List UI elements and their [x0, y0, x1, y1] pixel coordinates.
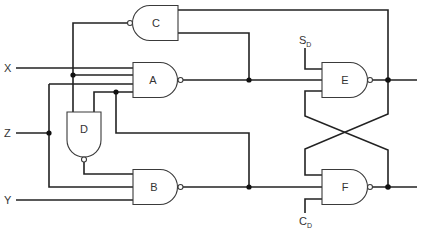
gate-b: B [133, 170, 183, 205]
wire-sd-input [305, 48, 322, 69]
signal-sd-main: S [299, 34, 306, 46]
junction-dot [113, 89, 118, 94]
signal-x-label: X [4, 62, 12, 74]
signal-sd-label: SD [299, 34, 311, 48]
junction-dot [385, 184, 391, 190]
junction-dot [246, 184, 251, 189]
inverter-bubble-icon [178, 78, 183, 83]
gate-a: A [133, 63, 183, 98]
signal-z-label: Z [4, 127, 11, 139]
gate-b-label: B [150, 181, 157, 193]
wire-c-input-lower [178, 33, 249, 80]
signal-cd-label: CD [299, 215, 312, 229]
gate-f-label: F [342, 181, 349, 193]
inverter-bubble-icon [368, 185, 373, 190]
gate-a-label: A [149, 74, 157, 86]
junction-dot [70, 72, 75, 77]
gate-d: D [67, 112, 101, 162]
junction-dot [46, 130, 51, 135]
wire-a-input4-d-input [94, 92, 133, 112]
logic-circuit-diagram: C A D B E F X Z Y SD CD [0, 0, 426, 234]
gate-c: C [128, 6, 179, 41]
gate-e: E [322, 63, 373, 98]
gate-d-label: D [80, 123, 88, 135]
inverter-bubble-icon [128, 21, 133, 26]
signal-y-label: Y [4, 194, 12, 206]
wire-d-output-to-b [84, 162, 133, 174]
signal-cd-main: C [299, 215, 307, 227]
gate-f: F [322, 170, 373, 205]
junction-dot [246, 77, 251, 82]
wire-cd-input [305, 199, 322, 213]
gate-e-label: E [341, 74, 348, 86]
signal-cd-subscript: D [307, 222, 312, 229]
junction-dot [385, 77, 391, 83]
inverter-bubble-icon [178, 185, 183, 190]
inverter-bubble-icon [82, 157, 87, 162]
signal-sd-subscript: D [306, 41, 311, 48]
gate-c-label: C [152, 17, 160, 29]
inverter-bubble-icon [368, 78, 373, 83]
